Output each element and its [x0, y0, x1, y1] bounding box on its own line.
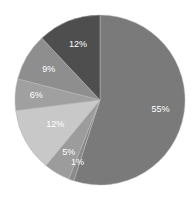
slice-label: 12%: [46, 119, 64, 129]
slice-label: 9%: [42, 64, 55, 74]
slice-label: 5%: [62, 147, 75, 157]
slice-label: 1%: [71, 157, 84, 167]
slice-label: 55%: [151, 104, 169, 114]
slice-label: 12%: [69, 39, 87, 49]
pie-chart: 55%1%5%12%6%9%12%: [0, 0, 196, 198]
slice-label: 6%: [30, 90, 43, 100]
